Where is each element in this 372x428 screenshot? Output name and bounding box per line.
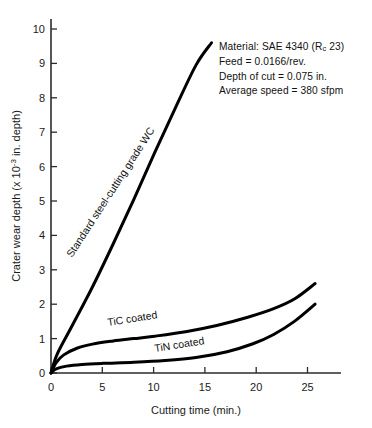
y-tick-label: 6	[39, 161, 45, 173]
y-axis-title-tail: in. depth)	[10, 110, 22, 159]
y-axis-tick-labels: 0 1 2 3 4 5 6 7 8 9 10	[33, 23, 45, 379]
y-axis-title: Crater wear depth (x 10-3 in. depth)	[9, 110, 22, 282]
annotation-average-speed: Average speed = 380 sfpm	[219, 84, 369, 98]
x-axis-title: Cutting time (min.)	[151, 404, 241, 416]
annotation-depth-of-cut: Depth of cut = 0.075 in.	[219, 70, 369, 84]
curve-label-wc: Standard steel-cutting grade WC	[64, 124, 157, 259]
y-tick-label: 2	[39, 298, 45, 310]
curve-label-tin: TiN coated	[153, 334, 205, 354]
y-tick-label: 9	[39, 57, 45, 69]
x-axis-ticks	[51, 367, 308, 373]
x-tick-label: 20	[250, 381, 262, 393]
x-tick-label: 5	[99, 381, 105, 393]
y-tick-label: 5	[39, 195, 45, 207]
annotation-material: Material: SAE 4340 (Rc 23)	[219, 40, 369, 55]
y-tick-label: 4	[39, 229, 45, 241]
annotation-material-suffix: 23)	[326, 41, 344, 52]
y-axis-title-lead: Crater wear depth (x 10	[10, 166, 22, 282]
y-tick-label: 10	[33, 23, 45, 35]
x-tick-label: 15	[199, 381, 211, 393]
x-axis-tick-labels: 0 5 10 15 20 25	[48, 381, 314, 393]
annotation-block: Material: SAE 4340 (Rc 23) Feed = 0.0166…	[219, 40, 369, 99]
curve-label-tic-group: TiC coated	[106, 308, 158, 328]
annotation-feed: Feed = 0.0166/rev.	[219, 55, 369, 69]
x-tick-label: 10	[147, 381, 159, 393]
annotation-material-prefix: Material: SAE 4340 (R	[219, 41, 322, 52]
y-tick-label: 8	[39, 92, 45, 104]
curve-label-tin-group: TiN coated	[153, 334, 205, 354]
y-tick-label: 0	[39, 367, 45, 379]
x-tick-label: 0	[48, 381, 54, 393]
curve-label-wc-group: Standard steel-cutting grade WC	[64, 124, 157, 259]
y-axis-ticks	[51, 29, 57, 373]
y-tick-label: 3	[39, 264, 45, 276]
crater-wear-chart: 0 1 2 3 4 5 6 7 8 9 10 0 5 10 15 20	[0, 0, 372, 428]
y-tick-label: 1	[39, 333, 45, 345]
curve-label-tic: TiC coated	[106, 308, 158, 328]
y-tick-label: 7	[39, 126, 45, 138]
x-tick-label: 25	[301, 381, 313, 393]
svg-text:Crater wear depth (x 10-3 in.: Crater wear depth (x 10-3 in. depth)	[9, 110, 22, 282]
